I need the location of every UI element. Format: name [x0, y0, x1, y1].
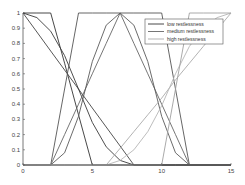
y-tick-label: 1: [17, 10, 21, 16]
y-tick-label: 0.9: [12, 25, 21, 31]
membership-function-chart: 00.10.20.30.40.50.60.70.80.91051015 low …: [0, 0, 245, 185]
y-tick-label: 0.5: [12, 86, 21, 92]
y-tick-label: 0: [17, 162, 21, 168]
y-tick-label: 0.2: [12, 132, 21, 138]
legend-label: medium restlessness: [167, 28, 214, 34]
legend: low restlessnessmedium restlessnesshigh …: [145, 19, 223, 44]
legend-label: high restlessness: [167, 36, 206, 42]
x-tick-label: 0: [21, 168, 25, 174]
y-tick-label: 0.4: [12, 101, 21, 107]
y-tick-label: 0.6: [12, 71, 21, 77]
y-tick-label: 0.3: [12, 116, 21, 122]
x-tick-label: 10: [158, 168, 165, 174]
y-tick-label: 0.7: [12, 56, 21, 62]
y-tick-label: 0.8: [12, 40, 21, 46]
legend-label: low restlessness: [167, 21, 204, 27]
x-tick-label: 5: [91, 168, 95, 174]
y-tick-label: 0.1: [12, 147, 21, 153]
x-tick-label: 15: [228, 168, 235, 174]
